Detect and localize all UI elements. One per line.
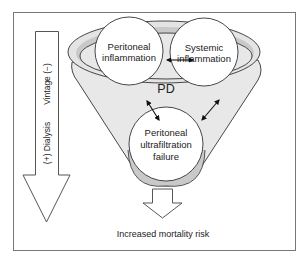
systemic-inflammation-line1: Systemic (185, 42, 224, 53)
node-peritoneal-inflammation: Peritoneal inflammation (95, 17, 163, 85)
ultrafiltration-line1: Peritoneal (145, 127, 188, 138)
peritoneal-inflammation-line2: inflammation (102, 52, 156, 63)
pd-label: PD (157, 82, 174, 96)
vintage-label: Vintage (−) (42, 63, 52, 105)
outcome-label: Increased mortality risk (117, 229, 210, 239)
diagram-canvas: Vintage (−) (+) Dialysis Peritoneal infl… (0, 0, 308, 261)
node-ultrafiltration-failure: Peritoneal ultrafiltration failure (129, 107, 203, 181)
systemic-inflammation-line2: inflammation (177, 53, 231, 64)
peritoneal-inflammation-line1: Peritoneal (108, 41, 151, 52)
node-systemic-inflammation: Systemic inflammation (170, 18, 238, 86)
dialysis-label: (+) Dialysis (42, 122, 52, 164)
ultrafiltration-line3: failure (153, 151, 179, 162)
ultrafiltration-line2: ultrafiltration (140, 139, 192, 150)
